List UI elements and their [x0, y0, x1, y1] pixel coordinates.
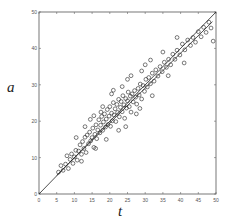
data-point [150, 71, 154, 75]
data-point [189, 44, 193, 48]
data-point [143, 63, 147, 67]
data-point [117, 115, 121, 119]
data-point [83, 135, 87, 139]
data-point [119, 105, 123, 109]
data-point [80, 152, 84, 156]
data-point [92, 114, 96, 118]
y-tick-label: 10 [31, 155, 37, 161]
data-point [111, 88, 115, 92]
data-point [71, 162, 75, 166]
data-point [123, 116, 127, 120]
data-point [115, 103, 119, 107]
data-point [120, 85, 124, 89]
data-point [78, 143, 82, 147]
data-point [140, 97, 144, 101]
data-point [173, 57, 177, 61]
data-point [158, 65, 162, 69]
data-point [156, 74, 160, 78]
data-point [91, 126, 95, 130]
data-point [140, 69, 144, 73]
data-point [97, 118, 101, 122]
data-point [138, 107, 142, 111]
data-point [83, 125, 87, 129]
x-tick-label: 15 [89, 197, 95, 203]
y-axis-label: a [7, 79, 15, 96]
data-point [202, 25, 206, 29]
x-tick-label: 25 [125, 197, 131, 203]
data-point [204, 30, 208, 34]
data-point [171, 52, 175, 56]
data-point [111, 101, 115, 105]
x-tick-label: 10 [72, 197, 78, 203]
data-point [129, 74, 133, 78]
data-point [180, 42, 184, 46]
data-point [150, 94, 154, 98]
x-axis-label: t [118, 203, 122, 220]
data-point [65, 154, 69, 158]
data-point [136, 87, 140, 91]
data-point [110, 92, 114, 96]
data-point [207, 20, 211, 24]
data-point [114, 120, 118, 124]
data-point [59, 164, 63, 168]
data-point [108, 105, 112, 109]
data-point [129, 110, 133, 114]
x-tick-label: 50 [213, 197, 219, 203]
y-tick-label: 20 [31, 118, 37, 124]
data-point [95, 137, 99, 141]
data-point [131, 100, 135, 104]
data-point [144, 77, 148, 81]
data-point [194, 40, 198, 44]
y-tick-label: 0 [34, 191, 37, 197]
data-point [93, 132, 97, 136]
data-point [199, 35, 203, 39]
data-point [75, 158, 79, 162]
y-tick-label: 30 [31, 82, 37, 88]
x-tick-label: 45 [196, 197, 202, 203]
scatter-chart: 0510152025303540455001020304050 [0, 0, 232, 223]
data-point [126, 77, 130, 81]
data-point [135, 102, 139, 106]
data-point [99, 110, 103, 114]
data-point [134, 112, 138, 116]
data-point [147, 76, 151, 80]
data-point [117, 97, 121, 101]
data-point [166, 74, 170, 78]
data-point [99, 123, 103, 127]
data-point [103, 112, 107, 116]
data-point [119, 100, 123, 104]
data-point [81, 140, 85, 144]
data-point [124, 125, 128, 129]
data-point [88, 130, 92, 134]
data-point [80, 159, 84, 163]
x-tick-label: 20 [107, 197, 113, 203]
y-tick-label: 50 [31, 9, 37, 15]
data-point [66, 167, 70, 171]
x-tick-label: 5 [55, 197, 58, 203]
data-point [101, 105, 105, 109]
data-point [64, 162, 68, 166]
data-point [88, 117, 92, 121]
y-tick-label: 40 [31, 45, 37, 51]
data-point [84, 151, 88, 155]
data-point [175, 36, 179, 40]
data-point [113, 107, 117, 111]
data-point [209, 26, 213, 30]
data-point [126, 90, 130, 94]
x-tick-label: 35 [160, 197, 166, 203]
data-point [143, 89, 147, 93]
data-point [74, 136, 78, 140]
data-point [104, 138, 108, 142]
x-tick-label: 40 [178, 197, 184, 203]
data-point [117, 128, 121, 132]
data-point [68, 158, 72, 162]
data-point [182, 61, 186, 65]
data-point [161, 50, 165, 54]
data-point [133, 89, 137, 93]
data-point [116, 111, 120, 115]
data-point [154, 68, 158, 72]
data-point [94, 123, 98, 127]
data-point [162, 60, 166, 64]
data-point [211, 39, 215, 43]
x-tick-label: 0 [38, 197, 41, 203]
